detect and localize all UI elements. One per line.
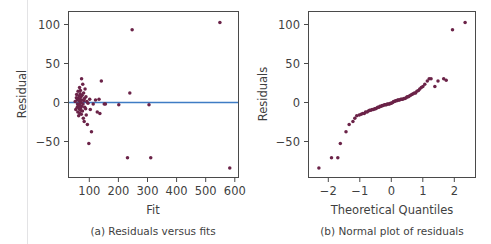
data-point (218, 21, 222, 25)
data-point (79, 89, 83, 93)
data-point (100, 79, 104, 83)
y-axis-ticks-a (64, 25, 69, 142)
data-point (317, 166, 321, 170)
data-point (117, 103, 121, 107)
y-ticklabel-a-50: 50 (45, 57, 60, 71)
x-ticklabel-b-2: 2 (451, 184, 458, 198)
y-axis-ticks-b (304, 25, 309, 142)
data-point (423, 82, 427, 86)
data-point (82, 91, 86, 95)
figure-container: 100 50 0 −50 Residual 100 200 300 400 50… (0, 0, 491, 244)
data-point (336, 156, 340, 160)
x-ticklabel-b-0: 0 (388, 184, 395, 198)
y-ticklabel-b-neg50: −50 (276, 135, 300, 149)
data-point (98, 112, 102, 116)
data-point (330, 156, 334, 160)
plot-frame-b (309, 12, 476, 178)
data-point (87, 142, 91, 146)
data-point (451, 28, 455, 32)
data-point (126, 156, 129, 160)
x-ticklabel-a-400: 400 (166, 184, 188, 198)
y-ticklabel-b-0: 0 (293, 96, 300, 110)
x-axis-ticks-a (89, 178, 235, 183)
data-point (80, 113, 84, 117)
data-point (130, 28, 134, 32)
data-point (104, 102, 108, 106)
y-ticklabel-a-0: 0 (53, 96, 60, 110)
panel-b-svg: 100 50 0 −50 Residuals −2 −1 0 1 2 Theor… (245, 0, 491, 244)
data-point (228, 166, 232, 170)
data-point (339, 142, 343, 146)
y-ticklabel-a-neg50: −50 (36, 135, 60, 149)
data-point (84, 113, 88, 117)
x-ticklabel-b-neg1: −1 (351, 184, 368, 198)
data-point (90, 130, 94, 134)
x-ticklabel-a-600: 600 (224, 184, 246, 198)
data-points-b (317, 21, 467, 170)
data-point (147, 103, 151, 107)
data-point (81, 109, 85, 113)
data-point (351, 120, 355, 124)
y-ticklabel-b-50: 50 (285, 57, 300, 71)
y-ticklabel-b-100: 100 (278, 18, 300, 32)
data-point (83, 87, 87, 91)
y-axis-title-a: Residual (15, 70, 29, 119)
x-ticklabel-b-1: 1 (419, 184, 426, 198)
data-point (149, 156, 153, 160)
y-axis-title-b: Residuals (256, 67, 270, 122)
data-point (88, 97, 92, 101)
data-point (128, 91, 132, 95)
data-point (84, 95, 88, 99)
data-point (94, 98, 98, 102)
data-point (436, 79, 440, 83)
x-ticklabel-a-300: 300 (137, 184, 159, 198)
data-point (89, 108, 93, 112)
data-point (344, 130, 348, 134)
panel-residuals-versus-fits: 100 50 0 −50 Residual 100 200 300 400 50… (0, 0, 246, 244)
y-ticklabel-a-100: 100 (38, 18, 60, 32)
data-point (81, 82, 85, 86)
data-point (78, 86, 82, 90)
data-point (86, 101, 90, 105)
caption-a: (a) Residuals versus fits (90, 225, 215, 237)
data-point (86, 123, 90, 127)
x-axis-ticks-b (328, 178, 454, 183)
data-point (433, 85, 437, 89)
data-point (444, 79, 448, 83)
data-point (82, 116, 86, 120)
data-point (82, 120, 86, 124)
data-point (429, 77, 433, 81)
x-ticklabel-a-200: 200 (107, 184, 129, 198)
x-axis-title-b: Theoretical Quantiles (330, 203, 454, 217)
data-point (347, 123, 351, 127)
x-axis-title-a: Fit (146, 203, 160, 217)
x-ticklabel-b-neg2: −2 (320, 184, 337, 198)
data-point (81, 102, 85, 106)
data-point (463, 21, 467, 25)
data-point (84, 107, 88, 111)
panel-normal-plot-of-residuals: 100 50 0 −50 Residuals −2 −1 0 1 2 Theor… (245, 0, 491, 244)
x-ticklabel-a-100: 100 (78, 184, 100, 198)
data-point (91, 102, 95, 106)
plot-frame-a (69, 12, 239, 178)
data-point (97, 97, 101, 101)
data-points-a (73, 21, 231, 170)
panel-a-svg: 100 50 0 −50 Residual 100 200 300 400 50… (0, 0, 246, 244)
caption-b: (b) Normal plot of residuals (320, 225, 464, 237)
x-ticklabel-a-500: 500 (195, 184, 217, 198)
data-point (80, 77, 84, 81)
